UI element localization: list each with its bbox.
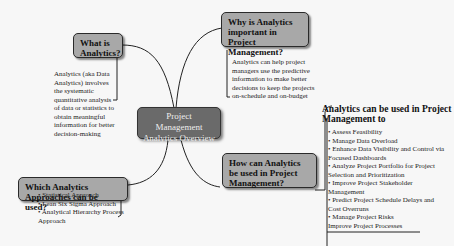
node-what-is-analytics[interactable]: What is Analytics? bbox=[73, 33, 123, 58]
note-what-is-analytics: Analytics (aka Data Analytics) involves … bbox=[54, 70, 116, 138]
list-item: • Manage Data Overload bbox=[328, 137, 448, 146]
list-item: • Analytical Hierarchy Process Approach bbox=[38, 208, 126, 225]
list-item: • Improve Project Stakeholder Management bbox=[328, 179, 448, 196]
list-item: • Enhance Data Visibility and Control vi… bbox=[328, 145, 448, 162]
list-item: • Lean Six Sigma Approach bbox=[38, 200, 126, 209]
note-which-approaches: • Statistical Approach • Lean Six Sigma … bbox=[38, 191, 126, 225]
list-item: • Manage Project Risks bbox=[328, 213, 448, 222]
list-item: • Analyze Project Portfolio for Project … bbox=[328, 162, 448, 179]
list-item: Improve Project Processes bbox=[328, 222, 448, 231]
uses-heading: Analytics can be used in Project Managem… bbox=[322, 104, 452, 124]
node-how-can-analytics[interactable]: How can Analytics be used in Project Man… bbox=[222, 153, 317, 188]
note-why-analytics: Analytics can help project managers use … bbox=[232, 58, 322, 101]
list-item: • Statistical Approach bbox=[38, 191, 126, 200]
node-why-analytics[interactable]: Why is Analytics important in Project Ma… bbox=[221, 12, 309, 47]
central-node[interactable]: Project Management Analytics Overview bbox=[137, 107, 221, 139]
list-item: • Predict Project Schedule Delays and Co… bbox=[328, 196, 448, 213]
note-uses-list: • Assess Feasibility • Manage Data Overl… bbox=[328, 128, 448, 230]
list-item: • Assess Feasibility bbox=[328, 128, 448, 137]
